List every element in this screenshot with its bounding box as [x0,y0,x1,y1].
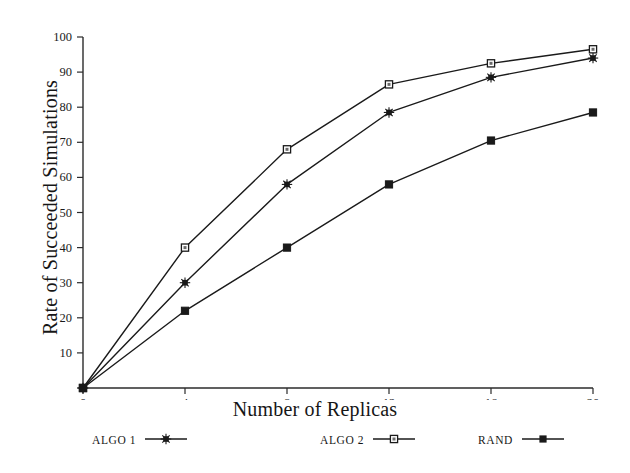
y-tick-label-30: 30 [60,276,73,290]
legend-item-label: ALGO 2 [320,434,364,446]
series-rand-pt3-marker-filled-square [385,181,392,188]
series-rand-pt4-marker-filled-square [487,137,494,144]
legend-item-symbol [143,432,189,448]
series-algo-2-pt3-marker-open-square-core [388,83,391,86]
x-axis-title: Number of Replicas [0,398,630,421]
legend-item-label: RAND [478,434,513,446]
series-algo-2-pt4-marker-open-square-core [490,62,493,65]
y-tick-label-60: 60 [60,170,73,184]
legend-symbol-filled-square [520,432,566,446]
legend-item-symbol [371,432,417,448]
series-line-algo-2 [83,49,593,388]
chart-page: Rate of Succeeded Simulations 1020304050… [0,0,630,473]
legend-item-label: ALGO 1 [92,434,136,446]
y-tick-label-50: 50 [60,206,73,220]
series-rand-pt5-marker-filled-square [589,109,596,116]
y-tick-label-90: 90 [60,65,73,79]
y-tick-label-10: 10 [60,346,73,360]
legend-symbol-open-square [371,432,417,446]
series-line-algo-1 [83,58,593,388]
y-tick-label-70: 70 [60,135,73,149]
y-tick-label-80: 80 [60,100,73,114]
y-tick-label-40: 40 [60,241,73,255]
y-tick-label-100: 100 [53,30,72,44]
series-algo-2-pt5-marker-open-square-core [592,48,595,51]
legend-item-algo-1[interactable]: ALGO 1 [92,432,189,452]
legend-symbol-star [143,432,189,446]
y-tick-label-20: 20 [60,311,73,325]
plot-area: 102030405060708090100048121620 [0,0,630,400]
series-line-rand [83,112,593,388]
series-rand-pt1-marker-filled-square [181,307,188,314]
legend-item-symbol [520,432,566,448]
origin-marker [79,384,87,392]
legend-item-rand[interactable]: RAND [478,432,566,452]
series-algo-2-pt1-marker-open-square-core [184,246,187,249]
legend-item-algo-2[interactable]: ALGO 2 [320,432,417,452]
series-algo-2-pt2-marker-open-square-core [286,148,289,151]
chart-legend: ALGO 1ALGO 2RAND [0,432,630,456]
series-rand-pt2-marker-filled-square [283,244,290,251]
